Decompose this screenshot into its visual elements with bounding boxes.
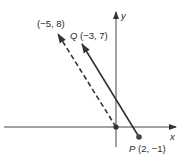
label-p-coords: (2, −1) — [138, 143, 166, 154]
label-p-name: P — [129, 143, 136, 154]
point-p — [136, 134, 142, 140]
dashed-vector-origin — [58, 34, 116, 127]
vector-diagram: x y (−5, 8) Q (−3, 7) P (2, −1) — [0, 0, 183, 162]
label-q-coords: (−3, 7) — [80, 30, 108, 41]
y-axis-label: y — [120, 10, 127, 21]
origin-point — [113, 124, 118, 129]
label-q-name: Q — [70, 30, 78, 41]
x-axis-label: x — [169, 131, 176, 142]
solid-vector-pq — [82, 44, 139, 137]
label-p: P (2, −1) — [129, 143, 166, 154]
label-q: Q (−3, 7) — [70, 30, 108, 41]
label-translated-tip: (−5, 8) — [37, 18, 65, 29]
